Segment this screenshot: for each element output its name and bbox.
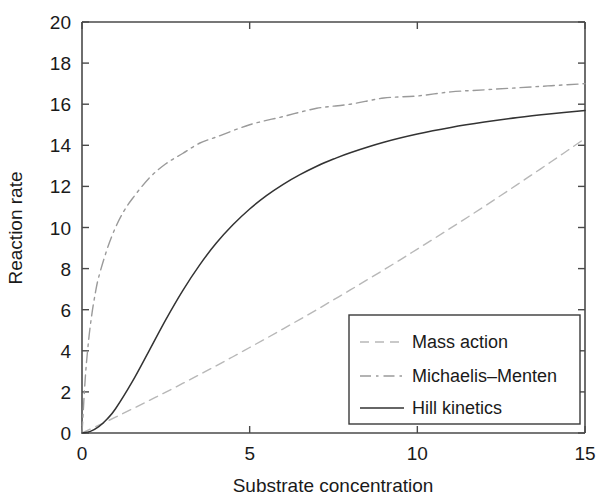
- y-tick-label: 6: [60, 300, 71, 321]
- y-tick-label: 10: [50, 218, 71, 239]
- y-tick-label: 18: [50, 53, 71, 74]
- chart-figure: 02468101214161820 051015 Substrate conce…: [0, 0, 608, 504]
- y-axis-title: Reaction rate: [5, 171, 26, 284]
- y-tick-label: 14: [50, 135, 72, 156]
- y-tick-label: 4: [60, 341, 71, 362]
- y-tick-label: 20: [50, 12, 71, 33]
- legend-label: Mass action: [412, 332, 508, 352]
- y-tick-label: 12: [50, 176, 71, 197]
- x-tick-label: 15: [574, 443, 595, 464]
- chart-background: [0, 0, 608, 504]
- legend: Mass actionMichaelis–MentenHill kinetics: [349, 315, 580, 424]
- y-tick-label: 2: [60, 382, 71, 403]
- y-tick-label: 8: [60, 259, 71, 280]
- chart-svg: 02468101214161820 051015 Substrate conce…: [0, 0, 608, 504]
- x-axis-title: Substrate concentration: [233, 475, 434, 496]
- x-tick-label: 0: [77, 443, 88, 464]
- y-tick-label: 0: [60, 423, 71, 444]
- x-tick-label: 5: [244, 443, 255, 464]
- legend-label: Michaelis–Menten: [412, 366, 557, 386]
- x-tick-label: 10: [407, 443, 428, 464]
- legend-label: Hill kinetics: [412, 398, 502, 418]
- y-tick-label: 16: [50, 94, 71, 115]
